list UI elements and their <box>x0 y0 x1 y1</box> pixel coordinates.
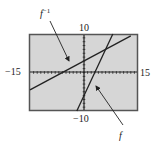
f-label: f <box>119 130 123 141</box>
x-min-label: −15 <box>5 66 21 77</box>
y-max-label: 10 <box>79 22 89 33</box>
x-max-label: 15 <box>140 67 150 78</box>
graph-figure: f−1 f 10 −10 −15 15 <box>0 0 154 144</box>
y-min-label: −10 <box>73 113 89 124</box>
f-inverse-label: f−1 <box>40 7 51 19</box>
